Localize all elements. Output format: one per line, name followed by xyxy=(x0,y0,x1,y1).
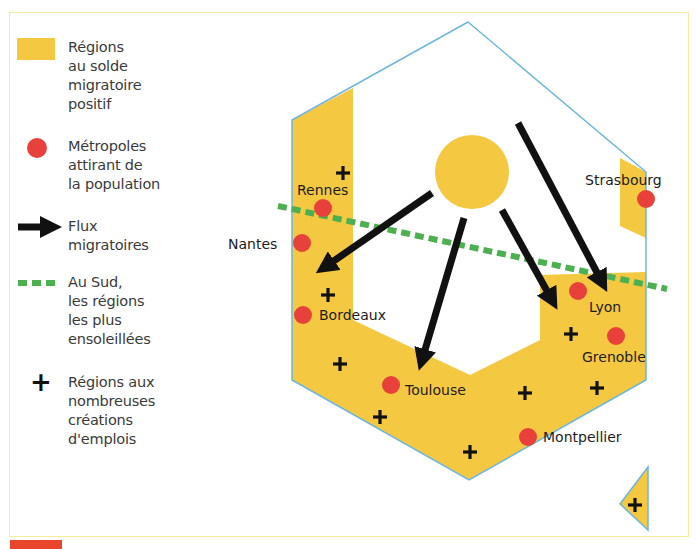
city-label-nantes: Nantes xyxy=(228,236,277,252)
city-dot-strasbourg xyxy=(637,190,655,208)
city-label-strasbourg: Strasbourg xyxy=(585,172,662,188)
city-dot-lyon xyxy=(569,282,587,300)
sun-icon xyxy=(435,135,509,209)
city-dot-bordeaux xyxy=(294,306,312,324)
city-dot-grenoble xyxy=(607,327,625,345)
city-label-toulouse: Toulouse xyxy=(404,382,466,398)
france-hexagon-map: Rennes Nantes Bordeaux Toulouse Montpell… xyxy=(0,0,696,549)
city-dot-rennes xyxy=(314,199,332,217)
flux-arrow-lyon-west xyxy=(502,210,552,300)
city-label-lyon: Lyon xyxy=(589,299,621,315)
city-dot-toulouse xyxy=(382,376,400,394)
city-label-bordeaux: Bordeaux xyxy=(319,307,386,323)
city-label-grenoble: Grenoble xyxy=(582,349,646,365)
city-dot-montpellier xyxy=(519,428,537,446)
city-dot-nantes xyxy=(293,234,311,252)
city-label-rennes: Rennes xyxy=(297,182,348,198)
city-label-montpellier: Montpellier xyxy=(543,429,622,445)
